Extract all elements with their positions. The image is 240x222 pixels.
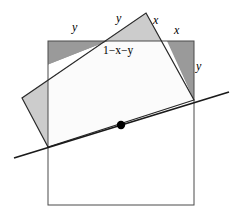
label-x-top-right: x [153, 14, 158, 26]
label-y-top-left: y [72, 21, 77, 33]
label-x-right: x [174, 24, 179, 36]
label-y-top-mid: y [116, 12, 121, 24]
label-y-right: y [196, 60, 201, 72]
center-point [117, 121, 125, 129]
figure-canvas [0, 0, 240, 222]
geometry-figure: y y x x y 1−x−y [0, 0, 240, 222]
label-remainder: 1−x−y [103, 45, 133, 57]
